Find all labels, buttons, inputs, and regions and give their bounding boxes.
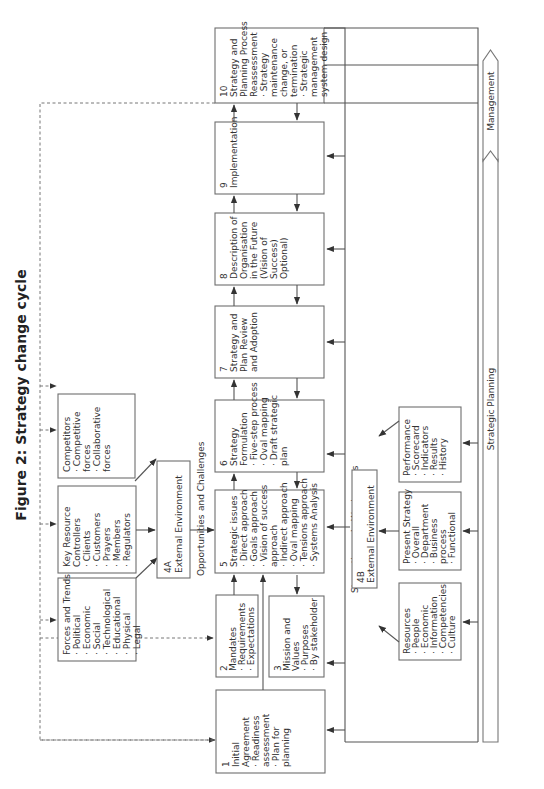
svg-text:and Challenges: and Challenges bbox=[196, 441, 206, 511]
box-4a-external-environment: 4A External Environment bbox=[157, 461, 190, 578]
competitors-box: Competitors · Competitive forces · Colla… bbox=[58, 394, 135, 478]
box-9-implementation: 9 Implementation bbox=[215, 117, 324, 194]
box-3-mission-and-values: 3 Mission and Values · Purposes · By sta… bbox=[269, 596, 324, 677]
present-strategy-box: Present Strategy · Overall · Department … bbox=[399, 486, 461, 570]
diagram-stage: Figure 2: Strategy change cycle Forces a… bbox=[0, 0, 544, 789]
box-8-description-of-future: 8 Description of Organisation in the Fut… bbox=[215, 213, 324, 285]
box-7-review-and-adoption: 7 Strategy and Plan Review and Adoption bbox=[215, 306, 324, 378]
opportunities-challenges-label: Opportunities and Challenges bbox=[190, 441, 214, 576]
box-10-reassessment: 10 Strategy and Planning Process Reasses… bbox=[215, 18, 329, 103]
svg-text:Strategic Planning: Strategic Planning bbox=[486, 368, 496, 450]
key-resource-controllers-box: Key Resource Controllers · Clients · Cus… bbox=[58, 486, 136, 573]
figure-title: Figure 2: Strategy change cycle bbox=[13, 269, 29, 520]
box-5-strategic-issues: 5 Strategic issues · Direct approach · G… bbox=[215, 475, 324, 573]
management-band: Management bbox=[483, 50, 498, 161]
svg-text:Opportunities: Opportunities bbox=[196, 514, 206, 576]
strategic-planning-band: Strategic Planning bbox=[483, 150, 498, 742]
svg-text:Management: Management bbox=[486, 71, 496, 131]
arrows-into-4a bbox=[135, 459, 157, 578]
performance-box: Performance · Scorecard · Indicators · R… bbox=[399, 407, 461, 482]
resources-box: Resources · People · Economic · Informat… bbox=[399, 581, 461, 660]
box-2-mandates: 2 Mandates · Requirements · Expectations bbox=[216, 595, 258, 677]
box-6-strategy-formulation: 6 Strategy Formulation · Five-step proce… bbox=[215, 379, 324, 472]
box-1-initial-agreement: 1 Initial Agreement · Readiness assessme… bbox=[216, 690, 325, 773]
forces-and-trends-box: Forces and Trends · Political · Economic… bbox=[58, 571, 142, 661]
box-4b-external-environment: 4B External Environment bbox=[352, 470, 377, 588]
strategy-change-cycle-diagram: Figure 2: Strategy change cycle Forces a… bbox=[0, 0, 544, 789]
